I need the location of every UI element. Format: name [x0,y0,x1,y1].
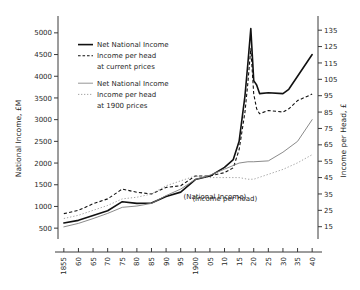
bottom-tick-label: 30 [280,257,288,266]
bottom-tick-label: 60 [75,257,83,266]
legend-label: Net National Income [97,80,169,88]
bottom-tick-label: 35 [294,257,302,266]
legend-label: Income per head [97,52,156,60]
legend-label: at current prices [97,63,155,71]
bottom-tick-label: 15 [236,257,244,266]
right-axis: 152535455565758595105115125135 [318,16,337,239]
right-tick-label: 95 [324,92,333,100]
right-tick-label: 65 [324,141,333,149]
left-tick-label: 4500 [34,51,52,59]
bottom-tick-label: 70 [104,257,112,266]
right-tick-label: 75 [324,125,333,133]
left-tick-label: 3500 [34,95,52,103]
right-tick-label: 85 [324,109,333,117]
bottom-tick-label: 05 [207,257,215,266]
right-tick-label: 135 [324,27,337,35]
right-axis-ticks: 152535455565758595105115125135 [318,27,337,232]
bottom-tick-label: 20 [250,257,258,266]
left-tick-label: 2500 [34,138,52,146]
bottom-tick-label: 80 [133,257,141,266]
bottom-tick-label: 1855 [60,257,68,275]
left-tick-label: 4000 [34,73,52,81]
bottom-tick-label: 90 [163,257,171,266]
right-tick-label: 35 [324,191,333,199]
bottom-tick-label: 40 [309,257,317,266]
series-line [64,120,312,227]
chart-legend: Net National IncomeIncome per headat cur… [78,41,169,110]
income-line-chart: 500100015002000250030003500400045005000 … [0,0,360,290]
bottom-tick-label: 65 [90,257,98,266]
series-line [64,48,312,213]
right-tick-label: 115 [324,60,337,68]
bottom-tick-label: 1900 [192,257,200,275]
left-axis-label: National Income, £M [14,100,23,177]
right-tick-label: 15 [324,223,333,231]
bottom-tick-label: 10 [221,257,229,266]
legend-label: Net National Income [97,41,169,49]
right-tick-label: 25 [324,207,333,215]
left-axis: 500100015002000250030003500400045005000 [34,16,58,239]
left-tick-label: 5000 [34,29,52,37]
right-tick-label: 45 [324,174,333,182]
bottom-tick-label: 85 [148,257,156,266]
left-tick-label: 1500 [34,181,52,189]
chart-annotation: (Income per head) [192,195,257,203]
right-tick-label: 105 [324,76,337,84]
left-tick-label: 500 [39,225,52,233]
legend-label: Income per head [97,91,156,99]
right-tick-label: 125 [324,43,337,51]
annotation-layer: (National Income)(Income per head) [184,193,258,203]
bottom-tick-label: 95 [177,257,185,266]
bottom-tick-label: 25 [265,257,273,266]
legend-label: at 1900 prices [97,102,148,110]
left-tick-label: 1000 [34,203,52,211]
left-axis-ticks: 500100015002000250030003500400045005000 [34,29,58,232]
chart-figure: 500100015002000250030003500400045005000 … [0,0,360,290]
left-tick-label: 2000 [34,160,52,168]
right-axis-label: Income per Head, £ [339,103,348,177]
left-tick-label: 3000 [34,116,52,124]
bottom-tick-label: 75 [119,257,127,266]
bottom-axis: 1855606570758085909519000510152025303540 [55,248,322,275]
right-tick-label: 55 [324,158,333,166]
